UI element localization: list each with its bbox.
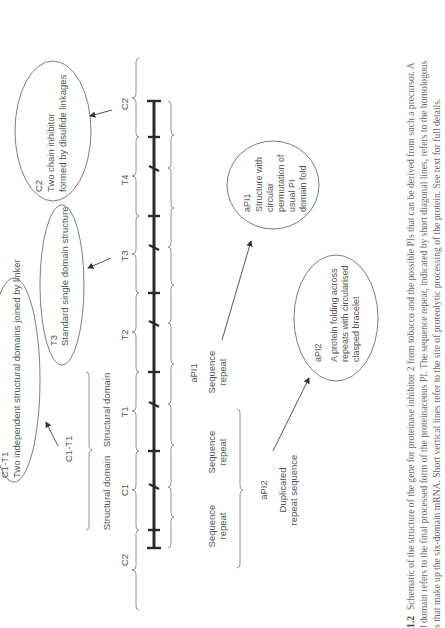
structural-domain-label: Structural domain	[101, 456, 112, 530]
seq-repeat-lower-line1: Sequence	[206, 505, 217, 548]
api1-line2: circular	[265, 183, 275, 212]
api1-line1: Structure with	[254, 157, 264, 212]
c2-line2: formed by disulfide linkages	[57, 75, 68, 192]
caption-line1: Schematic of the structure of the gene f…	[405, 62, 416, 610]
api1-title: aPI1	[242, 193, 252, 212]
arrow-icon	[46, 422, 58, 446]
caption-line2: l domain refers to the final processed f…	[418, 60, 429, 628]
seq-repeat-upper-line2: repeat	[217, 358, 228, 385]
segment-label-c1: C1	[119, 484, 130, 496]
segment-labels: C2 T4 T3 T2 T1 C1 C2	[119, 98, 130, 566]
t3-annotation: T3 Standard single domain structure	[40, 205, 111, 365]
arrow-icon	[90, 110, 112, 116]
api1-line5: domain fold	[298, 165, 308, 212]
segment-label-c2-bottom: C2	[119, 554, 130, 566]
api2-annotation: Sequence repeat Sequence repeat aPI2 Dup…	[206, 255, 378, 547]
t3-title: T3	[48, 335, 59, 346]
caption-line3: s that make up the six-domain mRNA. Shor…	[431, 99, 442, 628]
api2-line3: clasped bracelet	[351, 296, 361, 362]
api1-annotation: aPI1 Sequence repeat aPI1 Structure with…	[188, 141, 319, 393]
api2-label: aPI2	[258, 480, 269, 500]
structural-domain-label: Structural domain	[101, 373, 112, 447]
segment-label-t3: T3	[119, 250, 130, 261]
c1t1-line1: Two independent structural domains joine…	[11, 259, 22, 478]
duplicated-line2: repeat sequence	[288, 455, 299, 526]
seq-repeat-lower-line2: repeat	[217, 512, 228, 539]
seq-repeat-mid-line2: repeat	[217, 438, 228, 465]
segment-label-t1: T1	[119, 406, 130, 417]
segment-label-t4: T4	[119, 174, 130, 185]
arrow-icon	[273, 378, 309, 451]
figure-canvas: C2 T4 T3 T2 T1 C1 C2 Structural domain S…	[0, 0, 445, 628]
api2-line1: A protein folding across	[329, 268, 339, 362]
api1-label: aPI1	[188, 363, 199, 383]
c1t1-title: C1-T1	[0, 452, 10, 478]
c2-annotation: C2 Two chain inhibitor formed by disulfi…	[15, 61, 112, 201]
gene-bar	[147, 100, 161, 548]
figure-caption: 1.2 Schematic of the structure of the ge…	[405, 60, 442, 628]
caption-label: 1.2	[405, 616, 416, 628]
c1t1-pointer-label: C1-T1	[63, 436, 74, 462]
arrow-icon	[222, 241, 251, 340]
duplicated-line1: Duplicated	[277, 468, 288, 513]
segment-label-t2: T2	[119, 329, 130, 340]
api1-line3: permutation of	[276, 154, 286, 212]
api2-line2: repeats with circularised	[340, 265, 350, 362]
api2-title: aPI2	[313, 343, 323, 362]
c2-line1: Two chain inhibitor	[45, 113, 56, 192]
api1-line4: usual PI	[287, 179, 297, 212]
segment-label-c2-top: C2	[119, 98, 130, 110]
seq-repeat-upper-line1: Sequence	[206, 351, 217, 394]
domain-braces	[132, 58, 139, 610]
t3-line1: Standard single domain structure	[59, 207, 70, 346]
c2-title: C2	[33, 180, 44, 192]
arrow-icon	[88, 258, 111, 268]
seq-repeat-mid-line1: Sequence	[206, 431, 217, 474]
structural-domain-brace	[86, 372, 92, 530]
api2-brace	[237, 409, 243, 568]
